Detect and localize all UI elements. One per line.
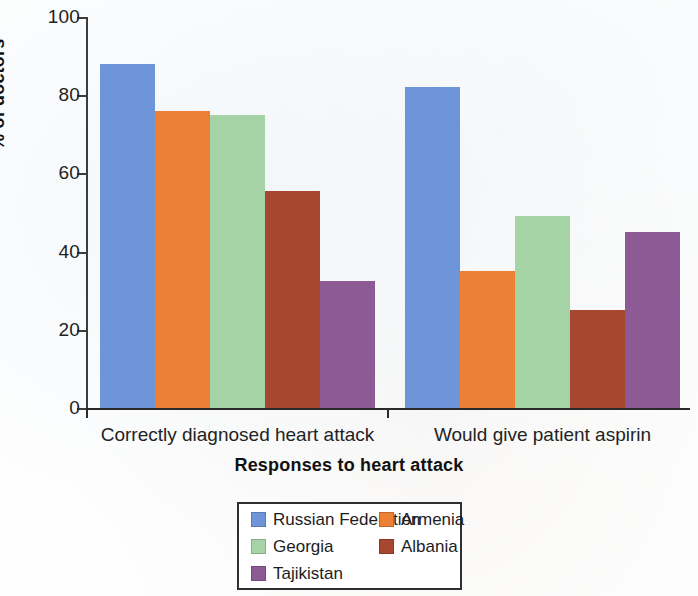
legend-label: Tajikistan <box>273 565 343 582</box>
x-tick-1 <box>86 408 88 418</box>
legend-swatch-icon <box>251 539 266 554</box>
bar-georgia-group-1 <box>210 115 265 408</box>
bar-chart-figure: % of doctors 020406080100 Correctly diag… <box>0 0 698 596</box>
bar-russian-federation-group-2 <box>405 87 460 408</box>
bar-albania-group-2 <box>570 310 625 408</box>
legend-row-1: Russian FederationArmenia <box>251 511 460 538</box>
legend-label: Georgia <box>273 538 333 555</box>
x-tick-2 <box>387 408 389 418</box>
legend-item-albania[interactable]: Albania <box>379 538 458 555</box>
x-axis-title: Responses to heart attack <box>0 455 698 476</box>
legend-row-3: Tajikistan <box>251 565 460 592</box>
y-axis-title: % of doctors <box>0 39 9 150</box>
bar-russian-federation-group-1 <box>100 64 155 408</box>
plot-area: 020406080100 <box>86 17 690 408</box>
bar-tajikistan-group-1 <box>320 281 375 408</box>
legend-label: Albania <box>401 538 458 555</box>
legend-item-armenia[interactable]: Armenia <box>379 511 464 528</box>
legend-item-russian-federation[interactable]: Russian Federation <box>251 511 379 528</box>
y-tick-label: 80 <box>58 84 80 106</box>
y-tick-label: 100 <box>48 6 80 28</box>
y-tick-label: 20 <box>58 319 80 341</box>
y-tick-label: 0 <box>69 397 80 419</box>
legend-swatch-icon <box>251 512 266 527</box>
chart-legend: Russian FederationArmeniaGeorgiaAlbaniaT… <box>237 502 462 590</box>
bar-armenia-group-1 <box>155 111 210 408</box>
y-tick-label: 60 <box>58 162 80 184</box>
legend-row-2: GeorgiaAlbania <box>251 538 460 565</box>
legend-swatch-icon <box>379 539 394 554</box>
legend-item-georgia[interactable]: Georgia <box>251 538 379 555</box>
legend-label: Armenia <box>401 511 464 528</box>
bar-tajikistan-group-2 <box>625 232 680 408</box>
category-label-2: Would give patient aspirin <box>343 424 698 446</box>
bar-armenia-group-2 <box>460 271 515 408</box>
y-axis-line <box>86 17 88 408</box>
legend-item-tajikistan[interactable]: Tajikistan <box>251 565 379 582</box>
bar-albania-group-1 <box>265 191 320 408</box>
y-tick-label: 40 <box>58 241 80 263</box>
legend-swatch-icon <box>379 512 394 527</box>
bar-georgia-group-2 <box>515 216 570 408</box>
legend-swatch-icon <box>251 566 266 581</box>
